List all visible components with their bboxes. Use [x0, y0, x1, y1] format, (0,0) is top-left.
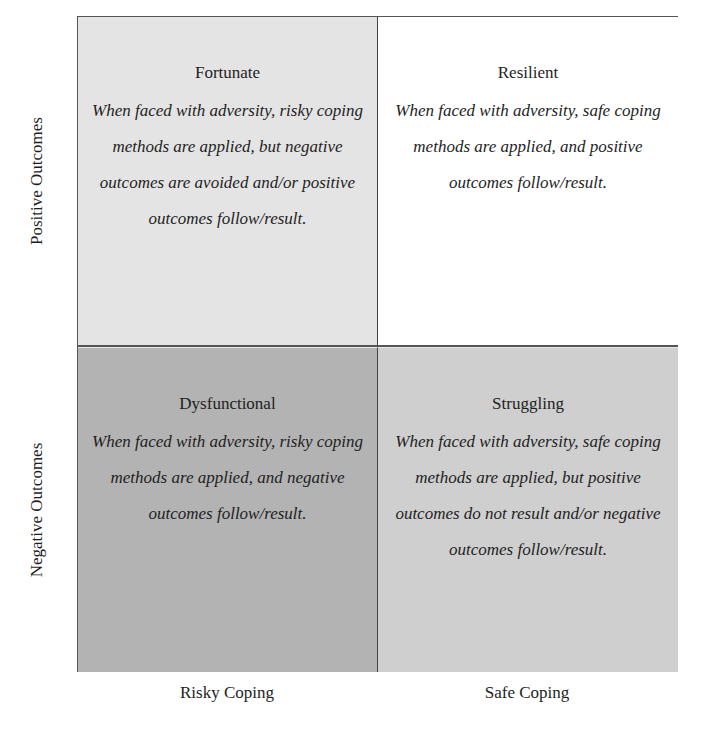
- quadrant-description: When faced with adversity, safe coping m…: [378, 93, 678, 201]
- quadrant-grid: Fortunate When faced with adversity, ris…: [77, 16, 678, 672]
- quadrant-title: Struggling: [378, 394, 678, 414]
- quadrant-title: Resilient: [378, 63, 678, 83]
- x-axis-label-risky: Risky Coping: [77, 683, 377, 703]
- y-axis-label-negative-text: Negative Outcomes: [27, 443, 47, 578]
- quadrant-description: When faced with adversity, risky coping …: [78, 93, 377, 237]
- quadrant-title: Dysfunctional: [78, 394, 377, 414]
- quadrant-title: Fortunate: [78, 63, 377, 83]
- quadrant-struggling: Struggling When faced with adversity, sa…: [378, 347, 678, 672]
- y-axis-label-positive-text: Positive Outcomes: [27, 117, 47, 245]
- x-axis-label-safe: Safe Coping: [377, 683, 677, 703]
- quadrant-resilient: Resilient When faced with adversity, saf…: [378, 17, 678, 347]
- quadrant-dysfunctional: Dysfunctional When faced with adversity,…: [78, 347, 378, 672]
- quadrant-description: When faced with adversity, risky coping …: [78, 424, 377, 532]
- quadrant-description: When faced with adversity, safe coping m…: [378, 424, 678, 568]
- quadrant-fortunate: Fortunate When faced with adversity, ris…: [78, 17, 378, 347]
